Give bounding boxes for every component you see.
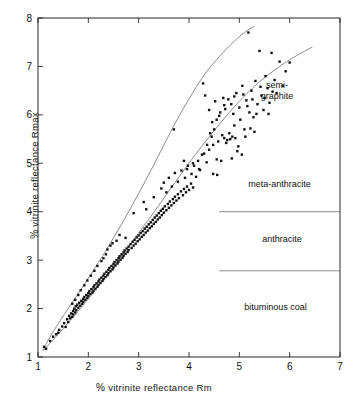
data-point [193,165,195,167]
data-point [270,52,272,54]
data-point [45,348,47,350]
data-point [80,289,82,291]
data-point [190,173,192,175]
data-point [173,202,175,204]
data-point [252,116,254,118]
plot-canvas: 123456712345678semi-graphitemeta-anthrac… [0,0,358,405]
data-point [93,270,95,272]
data-point [96,265,98,267]
data-point [248,111,250,113]
data-point [215,119,217,121]
data-point [190,182,192,184]
zone-label-group: bituminous coal [244,302,307,312]
data-point [253,131,255,133]
data-point [150,221,152,223]
data-point [247,31,249,33]
data-point [238,106,240,108]
data-point [260,94,262,96]
data-point [212,173,214,175]
data-point [57,332,59,334]
data-point [226,139,228,141]
x-tick-label: 6 [287,361,293,372]
data-point [197,160,199,162]
x-axis-title-text: vitrinite reflectance Rm [108,382,212,393]
data-point [61,325,63,327]
data-point [284,70,286,72]
data-point [147,229,149,231]
data-point [155,221,157,223]
data-point [170,204,172,206]
vitrinite-reflectance-scatter-figure: 123456712345678semi-graphitemeta-anthrac… [0,0,358,405]
data-point [124,237,126,239]
data-point [152,219,154,221]
data-point [182,194,184,196]
data-point [278,60,280,62]
data-point [228,132,230,134]
x-tick-label: 2 [86,361,92,372]
y-tick-label: 8 [26,13,32,24]
data-point [183,188,185,190]
data-point [111,242,113,244]
data-point [127,245,129,247]
data-point [58,329,60,331]
data-point [217,140,219,142]
data-point [143,201,145,203]
data-point [225,142,227,144]
data-point [273,79,275,81]
data-point [145,208,147,210]
data-point [102,257,104,259]
data-point [208,149,210,151]
data-point [205,161,207,163]
data-point [219,111,221,113]
data-point [259,86,261,88]
data-point [138,238,140,240]
data-point [115,240,117,242]
data-point [210,135,212,137]
zone-label-meta-anthracite: meta-anthracite [248,179,311,189]
data-point [214,100,216,102]
data-point [236,150,238,152]
y-axis-title-text: vitrinite reflectance Rmax [29,112,40,226]
data-point [233,124,235,126]
data-point [156,214,158,216]
data-point [208,109,210,111]
data-point [249,127,251,129]
upper-boundary [43,26,254,350]
data-point [130,247,132,249]
data-point [151,225,153,227]
data-point [232,113,234,115]
data-point [188,189,190,191]
data-point [241,85,243,87]
data-point [235,92,237,94]
data-point [52,335,54,337]
data-point [266,87,268,89]
y-axis-title: % vitrinite reflectance Rmax [29,76,40,276]
data-point [230,103,232,105]
data-point [133,239,135,241]
data-point [71,316,73,318]
data-point [231,157,233,159]
data-point [64,326,66,328]
data-point [204,94,206,96]
data-point [172,198,174,200]
data-point [222,97,224,99]
data-point [165,191,167,193]
x-axis-title: % vitrinite reflectance Rm [96,382,212,393]
data-point [263,97,265,99]
data-point [127,249,129,251]
data-point [167,203,169,205]
data-point [83,284,85,286]
zone-label-semi-graphite: semi- [266,80,288,90]
y-tick-label: 7 [26,61,32,72]
data-point [146,226,148,228]
data-point [132,212,134,214]
data-point [215,158,217,160]
data-point [213,128,215,130]
data-point [231,135,233,137]
data-point [185,191,187,193]
data-point [129,243,131,245]
data-point [233,95,235,97]
data-point [245,99,247,101]
data-point [198,168,200,170]
data-point [234,137,236,139]
